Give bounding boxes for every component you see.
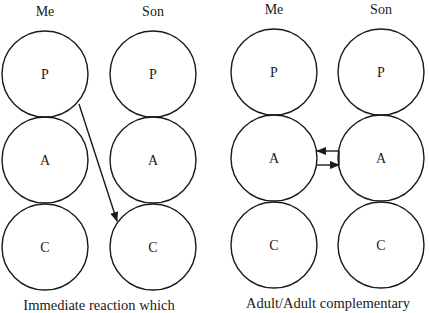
right-diagram bbox=[231, 29, 424, 288]
left-son-header: Son bbox=[142, 5, 164, 19]
right-me-adult-label: A bbox=[269, 152, 279, 166]
left-son-child-label: C bbox=[148, 241, 157, 255]
right-son-child-label: C bbox=[376, 239, 385, 253]
left-me-child-label: C bbox=[40, 241, 49, 255]
left-me-adult-label: A bbox=[40, 154, 50, 168]
right-son-parent-label: P bbox=[377, 66, 385, 80]
left-me-header: Me bbox=[36, 5, 55, 19]
right-son-adult-label: A bbox=[376, 152, 386, 166]
right-caption: Adult/Adult complementary bbox=[246, 296, 410, 311]
right-me-header: Me bbox=[265, 3, 284, 17]
left-caption: Immediate reaction which bbox=[23, 298, 174, 313]
left-son-parent-label: P bbox=[149, 68, 157, 82]
right-son-header: Son bbox=[370, 3, 392, 17]
right-me-child-label: C bbox=[269, 239, 278, 253]
crossed-transaction-arrow bbox=[79, 104, 117, 221]
left-diagram bbox=[2, 31, 196, 290]
left-me-parent-label: P bbox=[41, 68, 49, 82]
right-me-parent-label: P bbox=[270, 66, 278, 80]
left-son-adult-label: A bbox=[148, 154, 158, 168]
